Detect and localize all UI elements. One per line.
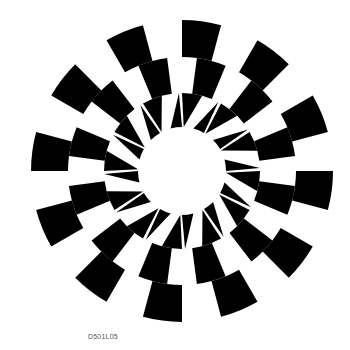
outer-checker-block — [182, 20, 221, 61]
inner-spikes-spike-inv — [225, 160, 260, 171]
outer-checker-block — [31, 132, 72, 171]
middle-checker-block — [192, 58, 225, 99]
inner-spikes-spike — [104, 151, 138, 171]
outer-checker-block — [143, 281, 182, 322]
middle-checker-block — [69, 181, 110, 214]
middle-checker-block — [229, 218, 272, 261]
outer-checker-block — [239, 40, 289, 90]
inner-spikes-spike-inv — [104, 171, 139, 182]
outer-checker-block — [292, 171, 333, 210]
inner-spikes-spike — [162, 215, 182, 249]
inner-spikes-spike — [226, 171, 260, 191]
middle-checker-block — [254, 127, 295, 160]
middle-checker-block — [254, 181, 295, 214]
middle-checker-block — [138, 243, 171, 284]
outer-checker-block — [75, 252, 125, 302]
outer-checker-block — [263, 228, 313, 278]
middle-checker-block — [69, 127, 110, 160]
figure-caption: D501L05 — [88, 333, 118, 340]
radial-checker-wheel — [0, 0, 350, 350]
inner-spikes-spike-inv — [182, 214, 193, 249]
inner-spikes-spike — [182, 93, 202, 127]
illusion-figure: D501L05 — [0, 0, 350, 350]
middle-checker-block — [192, 243, 225, 284]
inner-spikes-spike-inv — [171, 93, 182, 128]
middle-checker-block — [138, 58, 171, 99]
outer-checker-block — [51, 64, 101, 114]
